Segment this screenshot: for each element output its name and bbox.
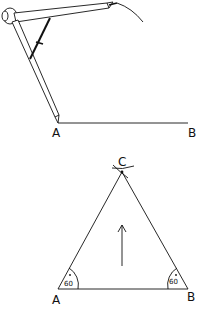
label-a-step1: A	[52, 126, 61, 140]
compass-icon	[2, 2, 117, 123]
vertex-c-point	[121, 171, 124, 174]
angle-a-dot	[69, 274, 71, 276]
label-b-step2: B	[187, 290, 195, 304]
up-arrow-icon	[118, 225, 126, 266]
construction-arc	[117, 3, 143, 22]
label-c: C	[118, 155, 126, 169]
angle-b-dot	[175, 274, 177, 276]
angle-a-value: 60	[64, 280, 73, 288]
label-b-step1: B	[188, 126, 196, 140]
angle-b-value: 60	[169, 278, 178, 286]
label-a-step2: A	[52, 293, 61, 307]
construction-diagram: A B 60 60 C A B	[0, 0, 201, 330]
